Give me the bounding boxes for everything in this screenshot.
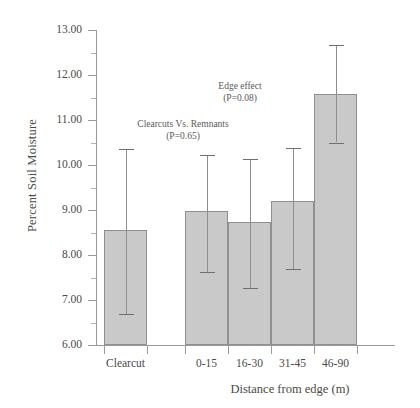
y-tick-mark [88, 210, 96, 211]
annotation-pvalue: (P=0.65) [113, 130, 253, 142]
y-tick-mark [88, 255, 96, 256]
y-minor-tick-mark [91, 233, 96, 234]
y-tick-mark [88, 345, 96, 346]
error-bar-cap-upper [119, 149, 134, 150]
y-tick-label: 12.00 [36, 68, 82, 80]
plot-area: 6.007.008.009.0010.0011.0012.0013.00 Cle… [0, 0, 420, 408]
error-bar-cap-lower [286, 269, 301, 270]
y-tick-label: 8.00 [36, 248, 82, 260]
y-tick-mark [88, 300, 96, 301]
error-bar-cap-lower [200, 272, 215, 273]
x-axis-title: Distance from edge (m) [185, 382, 395, 397]
x-tick-mark [147, 346, 148, 354]
error-bar-cap-upper [286, 148, 301, 149]
annotation-pvalue: (P=0.08) [170, 92, 310, 104]
x-tick-mark [271, 346, 272, 354]
x-tick-mark [314, 346, 315, 354]
y-tick-mark [88, 75, 96, 76]
x-tick-mark [228, 346, 229, 354]
y-minor-tick-mark [91, 278, 96, 279]
y-minor-tick-mark [91, 98, 96, 99]
y-tick-label: 11.00 [36, 113, 82, 125]
x-axis-line [96, 345, 395, 346]
x-tick-mark [185, 346, 186, 354]
x-tick-label: 46-90 [296, 357, 376, 369]
y-tick-label: 9.00 [36, 203, 82, 215]
y-minor-tick-mark [91, 188, 96, 189]
y-tick-mark [88, 165, 96, 166]
annotation-title: Clearcuts Vs. Remnants [137, 119, 228, 129]
y-tick-label: 10.00 [36, 158, 82, 170]
error-bar-cap-lower [329, 143, 344, 144]
x-tick-mark [104, 346, 105, 354]
y-tick-mark [88, 120, 96, 121]
error-bar-cap-lower [119, 314, 134, 315]
x-tick-label: Clearcut [86, 357, 166, 369]
y-tick-label: 6.00 [36, 338, 82, 350]
error-bar-cap-upper [243, 159, 258, 160]
chart-annotation: Edge effect(P=0.08) [170, 80, 310, 104]
error-bar-cap-upper [329, 45, 344, 46]
y-tick-label: 7.00 [36, 293, 82, 305]
annotation-title: Edge effect [218, 81, 261, 91]
y-minor-tick-mark [91, 323, 96, 324]
soil-moisture-bar-chart: Percent Soil Moisture 6.007.008.009.0010… [0, 0, 420, 408]
y-minor-tick-mark [91, 53, 96, 54]
error-bar-cap-upper [200, 155, 215, 156]
y-axis-line [96, 30, 97, 346]
y-minor-tick-mark [91, 143, 96, 144]
error-bar-line [293, 148, 294, 270]
y-tick-mark [88, 30, 96, 31]
error-bar-line [250, 159, 251, 288]
error-bar-line [207, 155, 208, 272]
y-tick-label: 13.00 [36, 23, 82, 35]
error-bar-line [336, 45, 337, 143]
chart-annotation: Clearcuts Vs. Remnants(P=0.65) [113, 118, 253, 142]
error-bar-line [126, 149, 127, 313]
error-bar-cap-lower [243, 288, 258, 289]
x-tick-mark [357, 346, 358, 354]
